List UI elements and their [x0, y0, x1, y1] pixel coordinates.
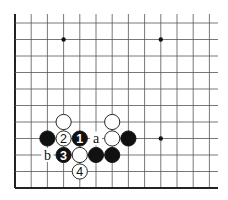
star-point-icon — [159, 37, 163, 41]
star-point-icon — [159, 136, 163, 140]
move-number-2: 2 — [60, 132, 67, 146]
black-stone-icon — [105, 147, 120, 162]
black-stone-icon — [121, 131, 136, 146]
move-number-4: 4 — [76, 165, 83, 179]
white-stone-icon — [105, 131, 120, 146]
white-stone-icon — [56, 114, 71, 129]
move-number-3: 3 — [60, 149, 67, 163]
white-stone-icon — [72, 147, 87, 162]
board-letter-b: b — [44, 148, 51, 163]
move-number-1: 1 — [76, 132, 83, 146]
white-stone-icon — [105, 114, 120, 129]
black-stone-icon — [40, 131, 55, 146]
star-point-icon — [61, 37, 65, 41]
go-board: ab 2134 — [0, 0, 228, 200]
stones: 2134 — [40, 114, 136, 179]
black-stone-icon — [88, 147, 103, 162]
board-letter-a: a — [93, 131, 100, 146]
